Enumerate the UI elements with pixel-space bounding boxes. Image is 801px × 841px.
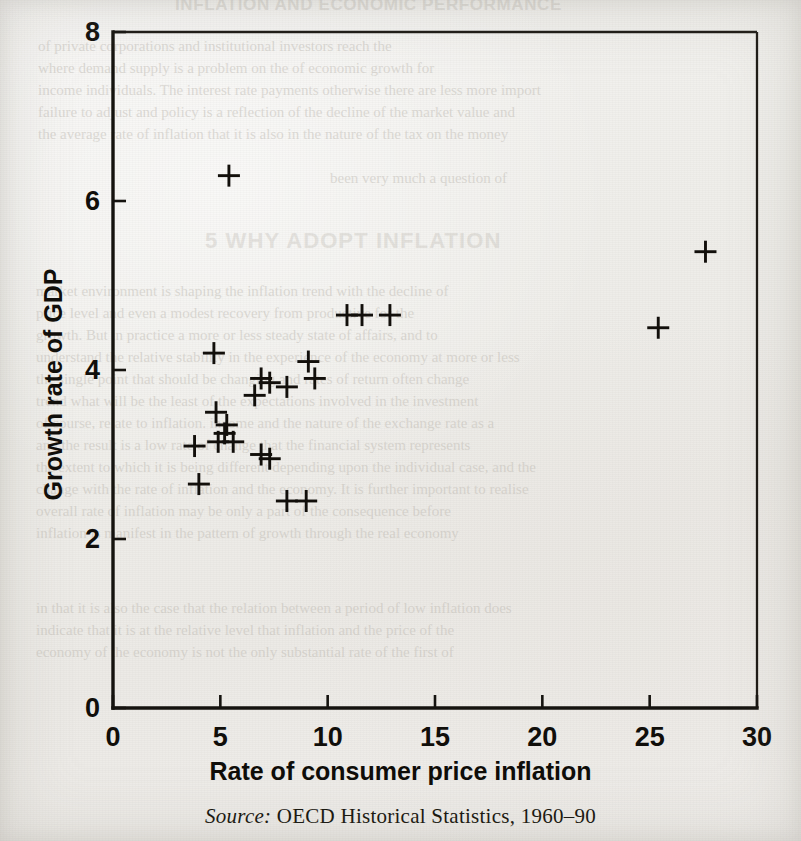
x-tick-label: 15 — [420, 724, 450, 751]
source-text: OECD Historical Statistics, 1960–90 — [277, 804, 596, 828]
x-tick-label: 0 — [105, 724, 120, 751]
y-tick-label: 4 — [72, 357, 100, 384]
data-point — [218, 165, 240, 187]
data-point — [351, 304, 373, 326]
y-tick-label: 6 — [72, 188, 100, 215]
x-tick-label: 10 — [313, 724, 343, 751]
data-point — [647, 317, 669, 339]
x-tick-label: 25 — [635, 724, 665, 751]
data-point — [379, 304, 401, 326]
scanned-page: INFLATION AND ECONOMIC PERFORMANCE of pr… — [0, 0, 801, 841]
scatter-plot-figure: 051015202530 02468 Rate of consumer pric… — [0, 0, 801, 841]
data-point — [276, 490, 298, 512]
y-axis-title: Growth rate of GDP — [39, 225, 68, 545]
y-tick-label: 0 — [72, 695, 100, 722]
x-tick-label: 5 — [213, 724, 228, 751]
source-caption: Source: OECD Historical Statistics, 1960… — [0, 804, 801, 829]
y-tick-label: 2 — [72, 526, 100, 553]
data-point — [295, 490, 317, 512]
data-point — [188, 473, 210, 495]
axis-ticks — [113, 32, 757, 708]
data-point-markers — [184, 165, 717, 512]
source-label: Source: — [205, 804, 271, 828]
data-point — [694, 241, 716, 263]
plot-frame — [113, 32, 757, 708]
x-tick-label: 30 — [742, 724, 772, 751]
data-point — [203, 342, 225, 364]
x-axis-title: Rate of consumer price inflation — [0, 757, 801, 786]
y-tick-label: 8 — [72, 19, 100, 46]
data-point — [205, 401, 227, 423]
data-point — [276, 376, 298, 398]
plot-canvas — [0, 0, 801, 841]
data-point — [184, 435, 206, 457]
x-tick-label: 20 — [527, 724, 557, 751]
